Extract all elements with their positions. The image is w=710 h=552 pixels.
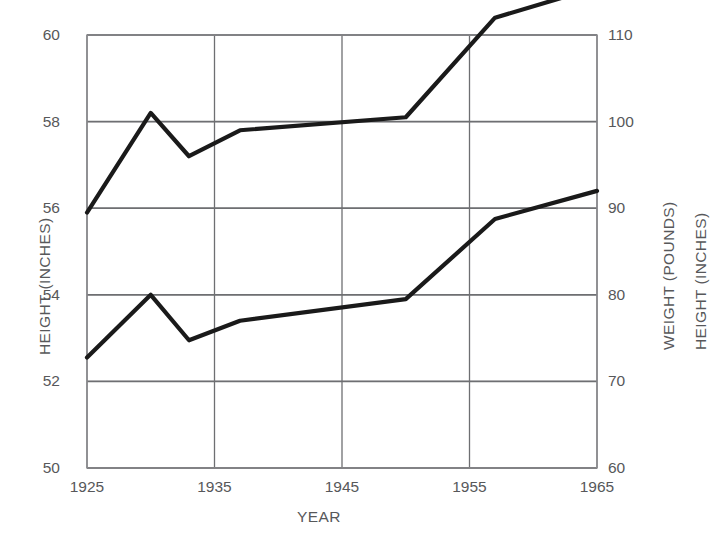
y-tick-label-height: 58 [20, 113, 60, 131]
y-tick-label-weight: 100 [608, 113, 648, 131]
x-tick-label-year: 1965 [567, 478, 627, 496]
y-tick-label-weight: 60 [608, 459, 648, 477]
x-tick-label-year: 1955 [440, 478, 500, 496]
x-tick-label-year: 1925 [57, 478, 117, 496]
y-tick-label-height: 50 [20, 459, 60, 477]
y-tick-label-weight: 80 [608, 286, 648, 304]
y-tick-label-height: 52 [20, 372, 60, 390]
y-axis-right-height-title: HEIGHT (INCHES) [692, 213, 710, 350]
y-axis-right-weight-title: WEIGHT (POUNDS) [660, 201, 678, 350]
y-tick-label-weight: 70 [608, 372, 648, 390]
x-tick-label-year: 1945 [312, 478, 372, 496]
y-tick-label-weight: 110 [608, 26, 648, 44]
x-axis-title: YEAR [297, 508, 341, 526]
y-tick-label-height: 60 [20, 26, 60, 44]
y-tick-label-height: 56 [20, 199, 60, 217]
y-tick-label-height: 54 [20, 286, 60, 304]
x-tick-label-year: 1935 [185, 478, 245, 496]
y-tick-label-weight: 90 [608, 199, 648, 217]
